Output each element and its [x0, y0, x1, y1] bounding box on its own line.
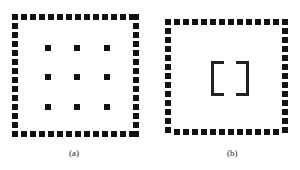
caption-a: (a) — [69, 148, 79, 158]
dot — [104, 74, 110, 80]
frame-left — [12, 14, 18, 137]
dot — [74, 45, 80, 51]
dot — [104, 104, 110, 110]
dot — [45, 74, 51, 80]
frame-right — [282, 19, 288, 135]
frame-top — [165, 19, 288, 25]
frame-bottom — [12, 131, 139, 137]
frame-bottom — [165, 129, 288, 135]
dot — [45, 104, 51, 110]
frame-top — [12, 14, 139, 20]
frame-left — [165, 19, 171, 135]
right-bracket — [236, 61, 249, 96]
dot — [104, 45, 110, 51]
dot — [74, 104, 80, 110]
dot — [45, 45, 51, 51]
dot — [74, 74, 80, 80]
caption-b: (b) — [227, 148, 238, 158]
left-bracket — [211, 61, 224, 96]
frame-right — [133, 14, 139, 137]
